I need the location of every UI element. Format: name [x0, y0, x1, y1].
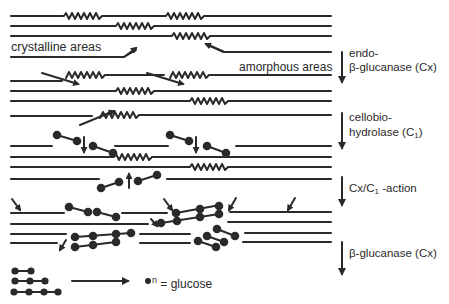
cxc1-arrow-6 — [60, 240, 66, 250]
endo-label-line2: β-glucanase (Cx) — [349, 61, 437, 74]
cxc1-arrow-5 — [288, 198, 295, 210]
bgluc-label: β-glucanase (Cx) — [349, 247, 437, 260]
exo-attack-arrow — [80, 111, 114, 125]
cxc1-arrow-3 — [151, 219, 157, 226]
cxc1-label: Cx/C1 -action — [349, 182, 417, 198]
cxc1-label-main: Cx/C — [349, 182, 375, 194]
glucose-dot-icon — [145, 278, 151, 284]
cxc1-label-end: -action — [379, 182, 417, 194]
legend-glucose-label: n = glucose — [152, 274, 212, 291]
cbh-label-main: hydrolase (C — [349, 126, 414, 138]
legend-glucose-text: = glucose — [157, 277, 212, 291]
cbh-label-line2: hydrolase (C1) — [349, 126, 423, 142]
cxc1-chains — [11, 212, 331, 243]
endo-label-line1: endo- — [349, 47, 378, 60]
legend-products — [11, 268, 60, 294]
crystalline-pointer-arrow — [124, 48, 136, 57]
cxc1-arrow-4 — [229, 198, 236, 210]
amorphous-areas-label: amorphous areas — [239, 61, 332, 74]
cbh-label-line1: cellobio- — [349, 111, 392, 124]
cbh-label-end: ) — [419, 126, 423, 138]
amorphous-pointer-arrow — [206, 44, 224, 52]
cxc1-arrow-1 — [12, 199, 20, 210]
cellobiose-fragments — [54, 132, 230, 192]
cbh-cleaved-chains — [11, 146, 331, 179]
cxc1-arrow-2 — [164, 199, 172, 210]
crystalline-areas-label: crystalline areas — [11, 41, 101, 54]
